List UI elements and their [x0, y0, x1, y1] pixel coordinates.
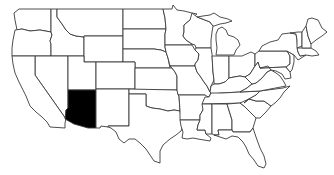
state-iowa — [165, 45, 199, 66]
state-indiana — [212, 56, 229, 84]
state-maine — [306, 18, 327, 44]
state-wyoming — [84, 36, 123, 62]
us-map: United States map Arizona — [0, 0, 334, 175]
state-michigan-lower — [216, 27, 240, 55]
state-colorado — [96, 62, 135, 89]
map-canvas — [0, 0, 334, 175]
state-arizona — [65, 90, 96, 128]
state-pennsylvania — [255, 51, 290, 68]
state-massachusetts — [297, 48, 319, 56]
state-new-mexico — [96, 89, 129, 128]
state-washington — [14, 9, 51, 32]
state-north-dakota — [123, 9, 166, 29]
state-florida — [214, 128, 266, 168]
state-kansas — [135, 68, 177, 90]
state-oregon — [12, 29, 52, 56]
